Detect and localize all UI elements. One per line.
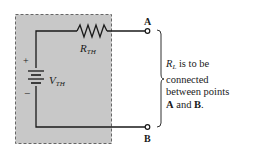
terminal-b-icon (145, 125, 150, 130)
terminal-a-icon (145, 29, 150, 34)
terminal-a-label: A (144, 16, 152, 27)
minus-sign: − (24, 87, 30, 99)
terminal-b-label: B (144, 133, 151, 144)
rl-symbol: RL (166, 58, 176, 69)
brace-icon (157, 30, 164, 127)
plus-sign: + (23, 55, 29, 66)
thevenin-diagram: + − RTH VTH A B RL is to be connected be… (0, 0, 260, 150)
connection-note: RL is to be connected between points A a… (166, 58, 258, 111)
